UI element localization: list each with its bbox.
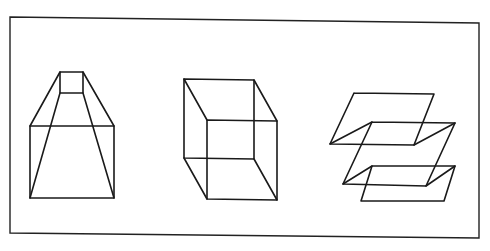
necker-cube-edge (184, 79, 254, 159)
truncated-pyramid-edge (30, 72, 60, 126)
stacked-planes-edge (414, 123, 455, 145)
necker-cube-edge (184, 158, 207, 199)
necker-cube-edge (254, 159, 277, 200)
truncated-pyramid-edge (83, 72, 114, 126)
necker-cube-edge (184, 79, 207, 120)
necker-cube-figure (184, 79, 277, 200)
truncated-pyramid-edge (30, 126, 114, 198)
truncated-pyramid-edge (60, 72, 83, 93)
stacked-planes-figure (330, 93, 455, 201)
necker-cube-edge (207, 120, 277, 200)
truncated-pyramid-figure (30, 72, 114, 198)
truncated-pyramid-edge (83, 93, 114, 198)
diagram-canvas (0, 0, 490, 251)
necker-cube-edge (254, 80, 277, 121)
stacked-planes-edge (361, 166, 455, 201)
figure-frame (10, 17, 479, 238)
stacked-planes-edge (330, 93, 434, 145)
stacked-planes-edge (330, 122, 372, 144)
truncated-pyramid-edge (30, 93, 60, 198)
